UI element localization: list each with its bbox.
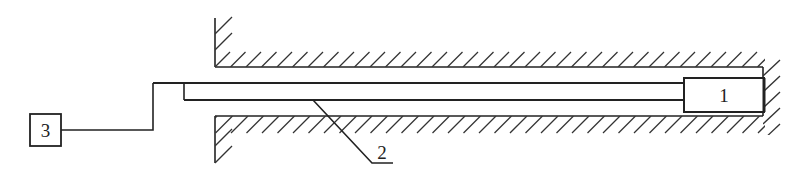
unit-box-3: 3: [30, 114, 61, 146]
rod: [153, 83, 683, 100]
end-wall: [763, 60, 780, 156]
wall-hatching: [215, 129, 232, 163]
probe-box-1: 1: [684, 78, 764, 112]
borehole-probe-diagram: 1 3 2: [0, 0, 808, 186]
wall-hatching: [215, 52, 773, 67]
label-2: 2: [377, 142, 387, 163]
label-1: 1: [719, 85, 729, 106]
wall-hatching: [215, 17, 232, 50]
wall-hatching: [200, 116, 775, 133]
label-3: 3: [41, 120, 51, 141]
lower-wall: [200, 116, 775, 163]
wall-hatching: [763, 60, 780, 156]
connection-wire: [61, 83, 153, 130]
upper-wall: [215, 17, 773, 67]
